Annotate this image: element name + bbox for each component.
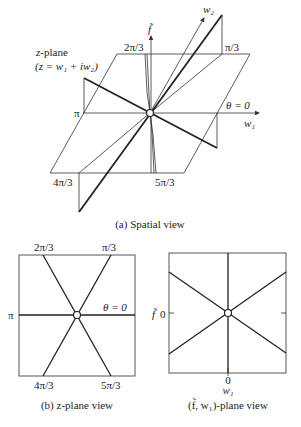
- label-f: f̃: [148, 23, 154, 35]
- label-b-pi-over-3: π/3: [102, 241, 117, 253]
- label-b-2pi-over-3: 2π/3: [34, 241, 54, 253]
- z-plane-view-panel: 2π/3 π/3 π θ = 0 4π/3 5π/3 (b) z-plane v…: [8, 241, 135, 412]
- spatial-view-panel: z-plane (z = w₁ + iw₂) 2π/3 π/3 π θ = 0 …: [35, 3, 259, 231]
- ray-pi-over-3-plane: [150, 54, 222, 113]
- label-pi-over-3: π/3: [225, 41, 240, 53]
- label-4pi-over-3: 4π/3: [53, 176, 73, 188]
- label-w2: w₂: [203, 3, 214, 15]
- label-w1: w₁: [244, 117, 255, 129]
- origin-marker-b: [74, 312, 81, 319]
- label-pi: π: [74, 107, 80, 119]
- caption-a: (a) Spatial view: [115, 218, 185, 231]
- z-plane-label: z-plane: [35, 46, 68, 58]
- label-b-theta0: θ = 0: [103, 301, 127, 313]
- origin-marker-c: [225, 310, 232, 317]
- label-b-4pi-over-3: 4π/3: [34, 379, 54, 391]
- caption-c: (f̃, w₁)-plane view: [188, 398, 268, 412]
- label-y-tick: 0: [160, 308, 166, 320]
- label-f-axis: f̃: [152, 308, 158, 320]
- label-b-pi: π: [8, 309, 14, 321]
- f-w1-plane-view-panel: f̃ 0 0 w₁ (f̃, w₁)-plane view: [152, 253, 286, 412]
- origin-marker: [147, 110, 154, 117]
- label-5pi-over-3: 5π/3: [155, 176, 175, 188]
- caption-b: (b) z-plane view: [41, 399, 113, 412]
- figure-canvas: z-plane (z = w₁ + iw₂) 2π/3 π/3 π θ = 0 …: [0, 0, 301, 427]
- label-b-5pi-over-3: 5π/3: [101, 379, 121, 391]
- label-theta0: θ = 0: [226, 99, 250, 111]
- w2-axis: [150, 18, 204, 113]
- label-w1-axis: w₁: [222, 384, 233, 396]
- z-plane-equation: (z = w₁ + iw₂): [35, 60, 98, 73]
- label-2pi-over-3: 2π/3: [124, 41, 144, 53]
